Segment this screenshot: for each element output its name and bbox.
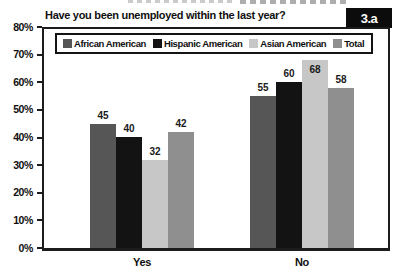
- bar-value-label: 58: [335, 75, 346, 85]
- legend-item: Total: [333, 38, 364, 49]
- y-tick-label: 60%: [13, 77, 33, 88]
- legend-swatch-icon: [249, 39, 258, 48]
- bar-value-label: 55: [257, 83, 268, 93]
- bar-slot: 42: [168, 119, 194, 248]
- x-category-label: Yes: [133, 256, 151, 268]
- bar-value-label: 60: [283, 69, 294, 79]
- y-tick-label: 50%: [13, 105, 33, 116]
- legend-swatch-icon: [333, 39, 342, 48]
- legend-label: Hispanic American: [164, 38, 242, 49]
- legend-item: African American: [63, 38, 146, 49]
- figure-3a: Have you been unemployed within the last…: [0, 0, 396, 273]
- bar-slot: 45: [90, 111, 116, 248]
- y-axis: 0%10%20%30%40%50%60%70%80%: [0, 27, 42, 248]
- y-tick-label: 0%: [19, 243, 33, 254]
- bar-slot: 68: [302, 65, 328, 248]
- bar-slot: 55: [250, 83, 276, 248]
- y-tick-label: 20%: [13, 188, 33, 199]
- bar-no-total: [328, 88, 354, 248]
- bar-value-label: 45: [97, 111, 108, 121]
- legend-item: Asian American: [249, 38, 326, 49]
- bar-yes-hispanic-american: [116, 137, 142, 248]
- cropped-text-remnant: [128, 0, 236, 3]
- y-tick-label: 30%: [13, 160, 33, 171]
- bar-no-hispanic-american: [276, 82, 302, 248]
- plot-area: African AmericanHispanic AmericanAsian A…: [42, 27, 390, 251]
- legend: African AmericanHispanic AmericanAsian A…: [55, 33, 373, 54]
- legend-swatch-icon: [153, 39, 162, 48]
- y-tick-label: 40%: [13, 132, 33, 143]
- cropped-text-remnant: [240, 0, 346, 4]
- bar-yes-asian-american: [142, 160, 168, 248]
- figure-number-badge: 3.a: [346, 8, 392, 28]
- y-tick-label: 10%: [13, 215, 33, 226]
- bar-no-african-american: [250, 96, 276, 248]
- bar-value-label: 32: [149, 147, 160, 157]
- bar-yes-total: [168, 132, 194, 248]
- bar-yes-african-american: [90, 124, 116, 248]
- legend-label: Total: [344, 38, 364, 49]
- bar-group-yes: 45403242: [90, 111, 194, 248]
- bar-slot: 58: [328, 75, 354, 248]
- bar-slot: 60: [276, 69, 302, 248]
- bar-value-label: 68: [309, 65, 320, 75]
- legend-label: African American: [74, 38, 146, 49]
- bar-no-asian-american: [302, 60, 328, 248]
- legend-swatch-icon: [63, 39, 72, 48]
- y-tick-label: 70%: [13, 49, 33, 60]
- bar-value-label: 42: [175, 119, 186, 129]
- bar-slot: 40: [116, 124, 142, 248]
- legend-label: Asian American: [260, 38, 326, 49]
- bar-slot: 32: [142, 147, 168, 248]
- chart-title: Have you been unemployed within the last…: [45, 9, 285, 21]
- y-tick-label: 80%: [13, 22, 33, 33]
- legend-item: Hispanic American: [153, 38, 242, 49]
- bar-value-label: 40: [123, 124, 134, 134]
- x-category-label: No: [295, 256, 309, 268]
- bar-group-no: 55606858: [250, 65, 354, 248]
